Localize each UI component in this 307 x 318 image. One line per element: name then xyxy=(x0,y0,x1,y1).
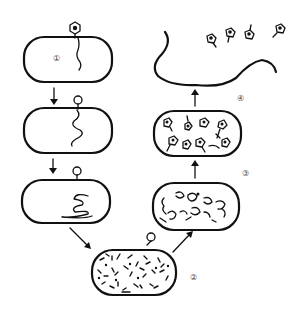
arrow-up-2 xyxy=(191,89,199,106)
phage-fragments xyxy=(98,254,169,292)
arrow-diagonal-up xyxy=(173,231,193,252)
empty-phage-coat-icon xyxy=(73,167,81,180)
injected-dna xyxy=(77,38,81,70)
phage-dna-circular xyxy=(72,110,83,146)
empty-phage-coat-icon xyxy=(147,233,155,245)
phage-icon xyxy=(216,134,230,147)
phage-dna-replicating xyxy=(62,195,92,218)
phage-icon xyxy=(196,138,205,152)
phage-attached-icon xyxy=(70,22,80,38)
phage-icon xyxy=(226,28,235,42)
phage-icon xyxy=(164,118,172,131)
arrow-diagonal-down xyxy=(70,228,91,249)
phage-icon xyxy=(273,24,285,37)
mature-phages xyxy=(164,116,230,152)
stage-3-label: ③ xyxy=(242,169,249,178)
host-cell-2 xyxy=(24,96,112,153)
host-cell-1: ① xyxy=(24,22,112,82)
phage-icon xyxy=(183,140,191,149)
host-cell-3 xyxy=(22,167,110,223)
stage-2-label: ② xyxy=(190,273,197,282)
phage-icon xyxy=(207,34,216,47)
released-phages xyxy=(207,24,285,47)
host-cell-mature: ④ xyxy=(154,94,244,156)
phage-icon xyxy=(167,136,178,151)
partial-phage-parts xyxy=(160,192,225,222)
arrow-down-2 xyxy=(49,159,57,174)
phage-icon xyxy=(245,25,254,39)
phage-icon xyxy=(200,118,209,127)
phage-icon xyxy=(185,116,192,130)
arrow-up-1 xyxy=(191,160,199,178)
host-cell-assembly: ③ xyxy=(153,169,249,230)
phage-icon xyxy=(217,120,227,138)
phage-cycle-diagram: ① xyxy=(0,0,307,318)
stage-4-label: ④ xyxy=(237,94,244,103)
arrow-down-1 xyxy=(50,88,58,105)
stage-1-label: ① xyxy=(53,54,60,63)
